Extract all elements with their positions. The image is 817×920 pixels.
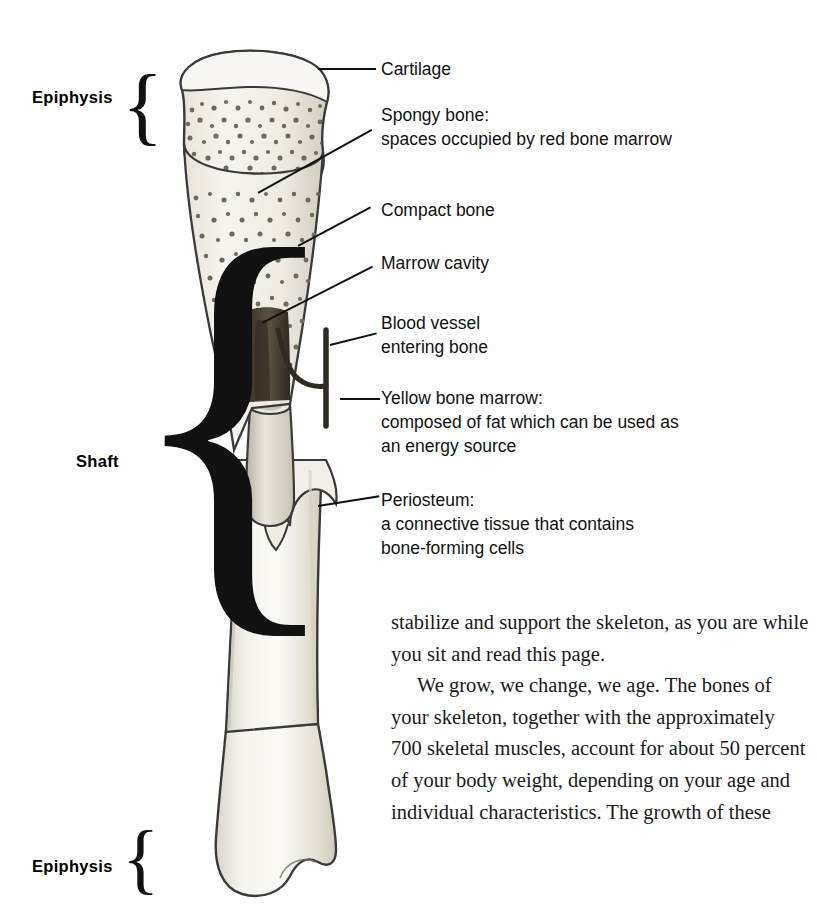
callout-marrow-cavity: Marrow cavity	[381, 251, 489, 275]
body-copy: stabilize and support the skeleton, as y…	[391, 607, 809, 828]
leader-line-yellow-marrow	[340, 398, 380, 400]
side-label-epiphysis-proximal: Epiphysis	[32, 88, 113, 107]
side-label-epiphysis-distal: Epiphysis	[32, 857, 113, 876]
brace-shaft: {	[122, 180, 348, 650]
body-paragraph-2: We grow, we change, we age. The bones of…	[391, 670, 809, 828]
distal-epiphysis	[216, 724, 336, 896]
callout-yellow-marrow: Yellow bone marrow: composed of fat whic…	[381, 386, 679, 458]
leader-line-cartilage	[318, 68, 376, 70]
callout-spongy-bone: Spongy bone: spaces occupied by red bone…	[381, 103, 672, 151]
body-paragraph-1: stabilize and support the skeleton, as y…	[391, 607, 809, 670]
callout-blood-vessel: Blood vessel entering bone	[381, 311, 488, 359]
brace-epiphysis-distal: {	[122, 820, 159, 898]
brace-epiphysis-proximal: {	[122, 62, 163, 148]
callout-cartilage: Cartilage	[381, 57, 451, 81]
side-label-shaft: Shaft	[76, 452, 119, 471]
callout-compact-bone: Compact bone	[381, 198, 495, 222]
callout-periosteum: Periosteum: a connective tissue that con…	[381, 488, 634, 560]
